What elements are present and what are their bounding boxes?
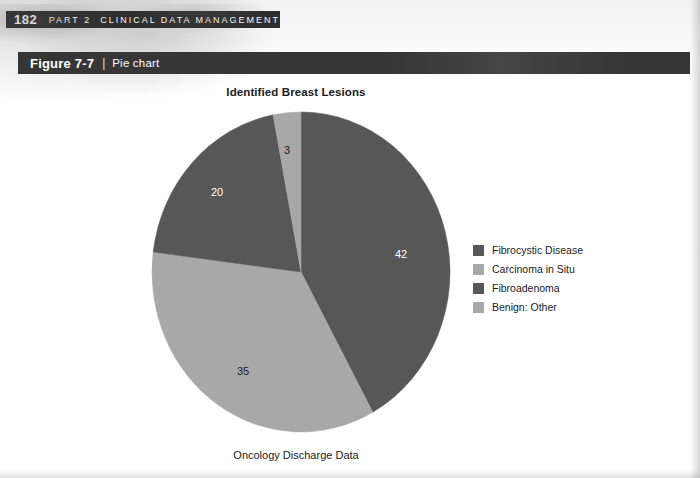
legend-item-label: Benign: Other: [492, 301, 557, 313]
page-folio-number: 182: [6, 12, 49, 27]
scan-edge-shadow-right: [690, 0, 700, 478]
legend-item-label: Carcinoma in Situ: [492, 263, 575, 275]
figure-number: Figure 7-7: [30, 56, 94, 71]
scanned-page: 182 PART 2CLINICAL DATA MANAGEMENT Figur…: [0, 0, 700, 478]
chart-title: Identified Breast Lesions: [0, 86, 592, 98]
running-head-part: PART 2: [49, 15, 92, 25]
chart-legend: Fibrocystic DiseaseCarcinoma in SituFibr…: [473, 241, 623, 317]
scan-edge-shadow-bottom: [0, 470, 700, 478]
pie-slice-value-label: 35: [237, 365, 249, 377]
legend-color-swatch: [473, 283, 484, 294]
pie-chart: 4235203: [151, 111, 451, 433]
pie-chart-svg: 4235203: [151, 111, 451, 433]
running-head-text: PART 2CLINICAL DATA MANAGEMENT: [49, 15, 280, 25]
legend-color-swatch: [473, 302, 484, 313]
legend-item[interactable]: Fibroadenoma: [473, 279, 623, 297]
legend-item-label: Fibrocystic Disease: [492, 244, 583, 256]
figure-title: Pie chart: [112, 57, 159, 69]
legend-item-label: Fibroadenoma: [492, 282, 560, 294]
legend-item[interactable]: Carcinoma in Situ: [473, 260, 623, 278]
legend-item[interactable]: Benign: Other: [473, 298, 623, 316]
pie-slice-value-label: 42: [395, 248, 407, 260]
pie-slice-value-label: 20: [211, 186, 223, 198]
chart-caption: Oncology Discharge Data: [0, 449, 592, 461]
running-head-title: CLINICAL DATA MANAGEMENT: [100, 15, 280, 25]
running-head: 182 PART 2CLINICAL DATA MANAGEMENT: [6, 11, 280, 28]
legend-item[interactable]: Fibrocystic Disease: [473, 241, 623, 259]
figure-separator: |: [102, 56, 105, 70]
legend-color-swatch: [473, 245, 484, 256]
figure-caption-bar: Figure 7-7 | Pie chart: [18, 52, 690, 74]
pie-slice-group: [152, 112, 450, 432]
legend-color-swatch: [473, 264, 484, 275]
pie-slice-value-label: 3: [284, 144, 290, 156]
